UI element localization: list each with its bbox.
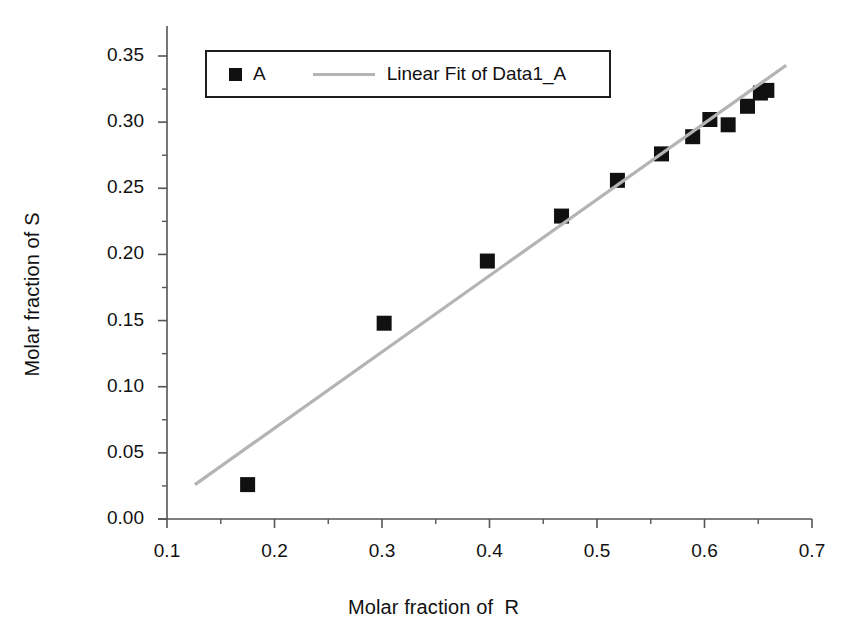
legend-label-linear-fit: Linear Fit of Data1_A [387, 63, 567, 85]
x-tick-label: 0.3 [352, 540, 412, 562]
y-tick-label: 0.30 [82, 110, 144, 132]
x-tick-label: 0.2 [245, 540, 305, 562]
x-tick-label: 0.7 [782, 540, 842, 562]
y-tick-label: 0.10 [82, 375, 144, 397]
y-tick-label: 0.15 [82, 309, 144, 331]
x-tick-label: 0.1 [137, 540, 197, 562]
y-tick-label: 0.20 [82, 242, 144, 264]
x-tick-label: 0.4 [460, 540, 520, 562]
y-tick-label: 0.25 [82, 176, 144, 198]
x-axis-title: Molar fraction of R [0, 596, 867, 619]
y-axis-title: Molar fraction of S [21, 145, 44, 445]
y-tick-label: 0.35 [82, 44, 144, 66]
chart-figure: 0.000.050.100.150.200.250.300.35 0.10.20… [0, 0, 867, 642]
x-tick-label: 0.5 [567, 540, 627, 562]
legend-marker-square-icon [229, 68, 242, 81]
data-point-marker [759, 83, 774, 98]
data-point-marker [740, 99, 755, 114]
y-tick-label: 0.00 [82, 507, 144, 529]
legend-label-series-a: A [253, 63, 266, 85]
data-point-marker [480, 254, 495, 269]
legend-line-icon [313, 73, 375, 76]
legend-entry-linear-fit: Linear Fit of Data1_A [313, 63, 567, 85]
x-tick-label: 0.6 [675, 540, 735, 562]
data-point-marker [240, 477, 255, 492]
legend: A Linear Fit of Data1_A [205, 50, 611, 98]
y-tick-label: 0.05 [82, 441, 144, 463]
data-point-marker [721, 117, 736, 132]
legend-entry-series-a: A [229, 63, 266, 85]
data-point-marker [377, 316, 392, 331]
fit-line-1 [195, 65, 786, 484]
